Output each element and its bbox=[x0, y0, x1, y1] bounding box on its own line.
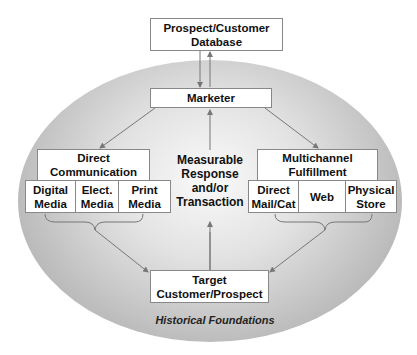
channel-print-media: Print Media bbox=[118, 180, 171, 213]
measurable-response-label: Measurable Response and/or Transaction bbox=[170, 153, 250, 209]
channel-digital-media: Digital Media bbox=[25, 180, 76, 213]
marketer-box: Marketer bbox=[150, 88, 272, 108]
channel-elect-media: Elect. Media bbox=[75, 180, 119, 213]
channel-physical-store: Physical Store bbox=[345, 180, 397, 213]
historical-foundations-label: Historical Foundations bbox=[150, 314, 280, 326]
channel-web: Web bbox=[298, 180, 346, 213]
channel-direct-mail: Direct Mail/Cat bbox=[248, 180, 299, 213]
database-box: Prospect/Customer Database bbox=[150, 18, 283, 51]
target-box: Target Customer/Prospect bbox=[150, 270, 269, 303]
multichannel-fulfillment-box: Multichannel Fulfillment bbox=[257, 149, 378, 181]
direct-communication-box: Direct Communication bbox=[37, 149, 150, 181]
